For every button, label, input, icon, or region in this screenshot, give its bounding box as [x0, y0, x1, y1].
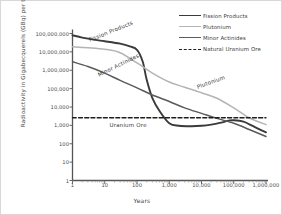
chart-figure: Radioactivity in Gigabecquerels (GBq) pe…: [0, 0, 282, 215]
legend-swatch: [179, 15, 201, 16]
legend-label: Fission Products: [203, 13, 248, 19]
legend-swatch: [179, 26, 201, 27]
legend-item-natural-uranium-ore[interactable]: Natural Uranium Ore: [179, 44, 282, 55]
annotation-uranium-ore: Uranium Ore: [109, 122, 146, 128]
legend-swatch: [179, 37, 201, 38]
legend-swatch: [179, 49, 201, 50]
series-line-plutonium: [73, 47, 267, 125]
legend-label: Minor Actinides: [203, 35, 246, 41]
chart-legend: Fission ProductsPlutoniumMinor Actinides…: [179, 10, 282, 55]
legend-label: Natural Uranium Ore: [203, 46, 261, 52]
legend-item-plutonium[interactable]: Plutonium: [179, 21, 282, 32]
legend-item-fission-products[interactable]: Fission Products: [179, 10, 282, 21]
legend-label: Plutonium: [203, 24, 231, 30]
legend-item-minor-actinides[interactable]: Minor Actinides: [179, 32, 282, 43]
